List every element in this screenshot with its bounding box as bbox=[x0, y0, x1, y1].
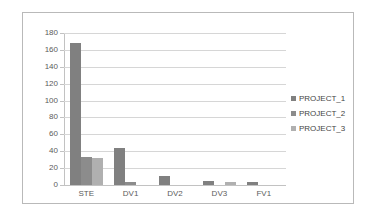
y-axis-tick bbox=[60, 117, 64, 118]
y-axis-tick bbox=[60, 134, 64, 135]
gridline bbox=[64, 185, 286, 186]
y-axis-tick bbox=[60, 168, 64, 169]
legend-item-label: PROJECT_2 bbox=[299, 109, 345, 118]
legend-swatch-project-3 bbox=[291, 126, 296, 131]
y-axis-tick-label: 20 bbox=[28, 164, 58, 172]
y-axis-tick-label: 120 bbox=[28, 80, 58, 88]
bar bbox=[114, 148, 125, 185]
y-axis-tick bbox=[60, 50, 64, 51]
y-axis-tick bbox=[60, 84, 64, 85]
bar-group bbox=[203, 33, 236, 185]
bar bbox=[81, 157, 92, 185]
legend-item[interactable]: PROJECT_2 bbox=[291, 106, 355, 121]
legend-item-label: PROJECT_3 bbox=[299, 124, 345, 133]
y-axis-tick bbox=[60, 33, 64, 34]
y-axis-tick-label: 60 bbox=[28, 130, 58, 138]
bar bbox=[225, 182, 236, 185]
bar bbox=[159, 176, 170, 185]
bar bbox=[125, 182, 136, 185]
bar-group bbox=[114, 33, 147, 185]
bar bbox=[92, 158, 103, 185]
y-axis-tick-label: 140 bbox=[28, 63, 58, 71]
legend-swatch-project-1 bbox=[291, 96, 296, 101]
bar bbox=[70, 43, 81, 185]
bar-group bbox=[247, 33, 280, 185]
bar-group bbox=[70, 33, 103, 185]
legend-item[interactable]: PROJECT_1 bbox=[291, 91, 355, 106]
x-axis-category-label: FV1 bbox=[242, 189, 286, 199]
y-axis-tick-label: 0 bbox=[28, 181, 58, 189]
x-axis-category-label: DV3 bbox=[197, 189, 241, 199]
y-axis-tick-label: 80 bbox=[28, 113, 58, 121]
y-axis-tick-label: 180 bbox=[28, 29, 58, 37]
bar bbox=[203, 181, 214, 185]
y-axis-tick bbox=[60, 185, 64, 186]
legend-swatch-project-2 bbox=[291, 111, 296, 116]
y-axis-tick-labels: 020406080100120140160180 bbox=[26, 13, 58, 205]
x-axis-category-label: STE bbox=[64, 189, 108, 199]
chart-frame: 020406080100120140160180 STEDV1DV2DV3FV1… bbox=[22, 12, 354, 204]
y-axis-tick bbox=[60, 67, 64, 68]
x-axis-category-label: DV1 bbox=[109, 189, 153, 199]
y-axis-tick-label: 160 bbox=[28, 46, 58, 54]
bar-group bbox=[159, 33, 192, 185]
y-axis-tick-label: 100 bbox=[28, 97, 58, 105]
y-axis-tick-label: 40 bbox=[28, 147, 58, 155]
chart-legend: PROJECT_1PROJECT_2PROJECT_3 bbox=[291, 91, 355, 136]
x-axis-category-label: DV2 bbox=[153, 189, 197, 199]
legend-item-label: PROJECT_1 bbox=[299, 94, 345, 103]
y-axis-tick bbox=[60, 101, 64, 102]
bar bbox=[247, 182, 258, 185]
x-axis-category-labels: STEDV1DV2DV3FV1 bbox=[64, 189, 286, 203]
legend-item[interactable]: PROJECT_3 bbox=[291, 121, 355, 136]
y-axis-tick bbox=[60, 151, 64, 152]
plot-area bbox=[64, 33, 286, 185]
